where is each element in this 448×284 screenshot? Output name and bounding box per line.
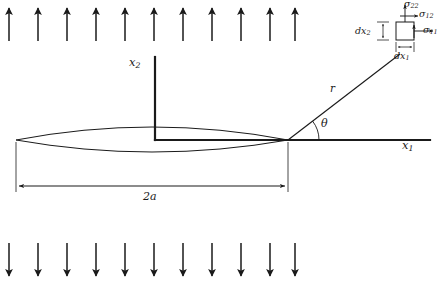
sigma-12-label: σ12 [419,9,434,20]
theta-angle-label: θ [321,118,328,129]
crack-length-label: 2a [143,191,157,202]
crack-upper-face [16,127,288,140]
dx-1-label: dx1 [394,51,410,62]
crack-lower-face [16,140,288,152]
figure-canvas [0,0,448,284]
crack-length-dimension [16,142,288,192]
x1-axis-label: x1 [402,140,413,153]
sigma-22-label: σ22 [404,0,419,10]
stress-element-square [396,22,414,40]
sigma-11-label: σ11 [423,25,438,36]
x2-axis-label: x2 [129,57,140,70]
coordinate-axes [155,57,430,140]
theta-arc [313,121,320,140]
dx-2-label: dx2 [355,26,371,37]
remote-tension-bottom-arrows [9,243,295,276]
radial-distance-label: r [330,83,335,94]
remote-tension-top-arrows [9,8,295,41]
fracture-mechanics-figure: x2 x1 r θ 2a σ22 σ12 σ11 dx2 dx1 [0,0,448,284]
radial-ray [288,54,400,140]
r-ray-line [288,54,400,140]
